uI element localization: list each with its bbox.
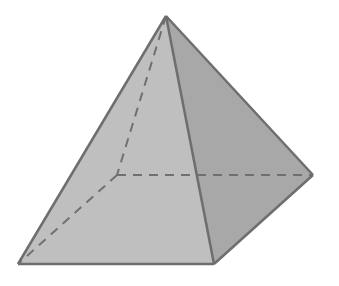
- square-pyramid-diagram: [0, 0, 339, 286]
